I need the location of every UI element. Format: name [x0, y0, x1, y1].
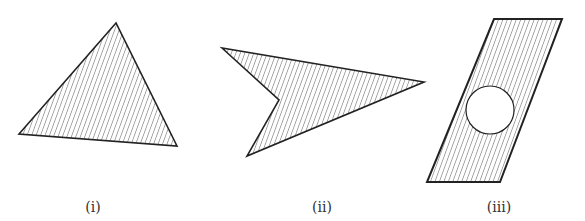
triangle-shape	[19, 23, 177, 146]
figure-label-i: (i)	[85, 199, 100, 215]
circular-hole	[466, 86, 514, 134]
figure-label-iii: (iii)	[487, 199, 511, 215]
figure-label-ii: (ii)	[312, 199, 332, 215]
figure-canvas: (i) (ii) (iii)	[0, 0, 585, 221]
figure-iii: (iii)	[427, 19, 562, 215]
arrowhead-shape	[222, 48, 424, 156]
figure-i: (i)	[19, 23, 177, 215]
figure-ii: (ii)	[222, 48, 424, 215]
